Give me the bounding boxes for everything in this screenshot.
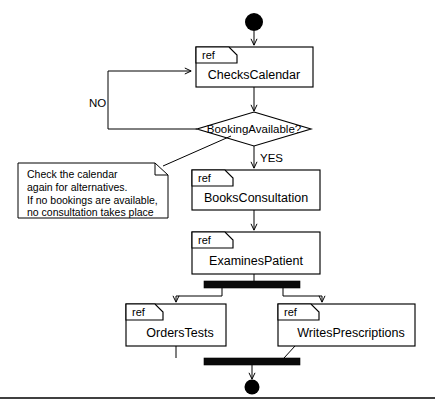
final-node <box>245 380 260 395</box>
edge-writesprescriptions-to-join <box>284 346 295 358</box>
examines-patient-label: ExaminesPatient <box>209 254 303 268</box>
orders-tests-ref-label: ref <box>132 306 146 318</box>
ref-frame-orders-tests: ref OrdersTests <box>126 304 226 346</box>
note-line-4: no consultation takes place <box>27 206 154 218</box>
fork-bar <box>204 281 300 288</box>
orders-tests-label: OrdersTests <box>146 326 213 340</box>
books-consultation-label: BooksConsultation <box>204 191 308 205</box>
note-line-1: Check the calendar <box>27 168 118 180</box>
decision-booking-available: BookingAvailable? <box>197 112 311 146</box>
edge-label-no: NO <box>89 97 106 109</box>
ref-frame-examines-patient: ref ExaminesPatient <box>192 232 320 274</box>
activity-diagram: ref ChecksCalendar BookingAvailable? NO … <box>0 0 435 412</box>
ref-frame-writes-prescriptions: ref WritesPrescriptions <box>278 304 415 346</box>
edge-label-yes: YES <box>260 152 283 164</box>
edge-fork-to-writesprescriptions <box>283 288 322 302</box>
ref-frame-books-consultation: ref BooksConsultation <box>192 170 320 210</box>
note-calendar: Check the calendar again for alternative… <box>18 163 168 218</box>
edge-no-loopback <box>108 71 197 129</box>
note-line-2: again for alternatives. <box>27 181 127 193</box>
checks-calendar-label: ChecksCalendar <box>208 68 300 82</box>
decision-label: BookingAvailable? <box>207 123 301 135</box>
ref-frame-checks-calendar: ref ChecksCalendar <box>196 47 313 87</box>
checks-calendar-ref-label: ref <box>202 49 216 61</box>
initial-node <box>245 13 263 31</box>
edge-fork-to-orderstests <box>176 288 222 302</box>
books-consultation-ref-label: ref <box>198 172 212 184</box>
diagram-canvas: ref ChecksCalendar BookingAvailable? NO … <box>0 0 435 412</box>
examines-patient-ref-label: ref <box>198 234 212 246</box>
note-connector-line <box>163 136 231 166</box>
writes-prescriptions-label: WritesPrescriptions <box>297 326 404 340</box>
note-line-3: If no bookings are available, <box>27 194 158 206</box>
join-bar <box>204 358 300 365</box>
writes-prescriptions-ref-label: ref <box>284 306 298 318</box>
